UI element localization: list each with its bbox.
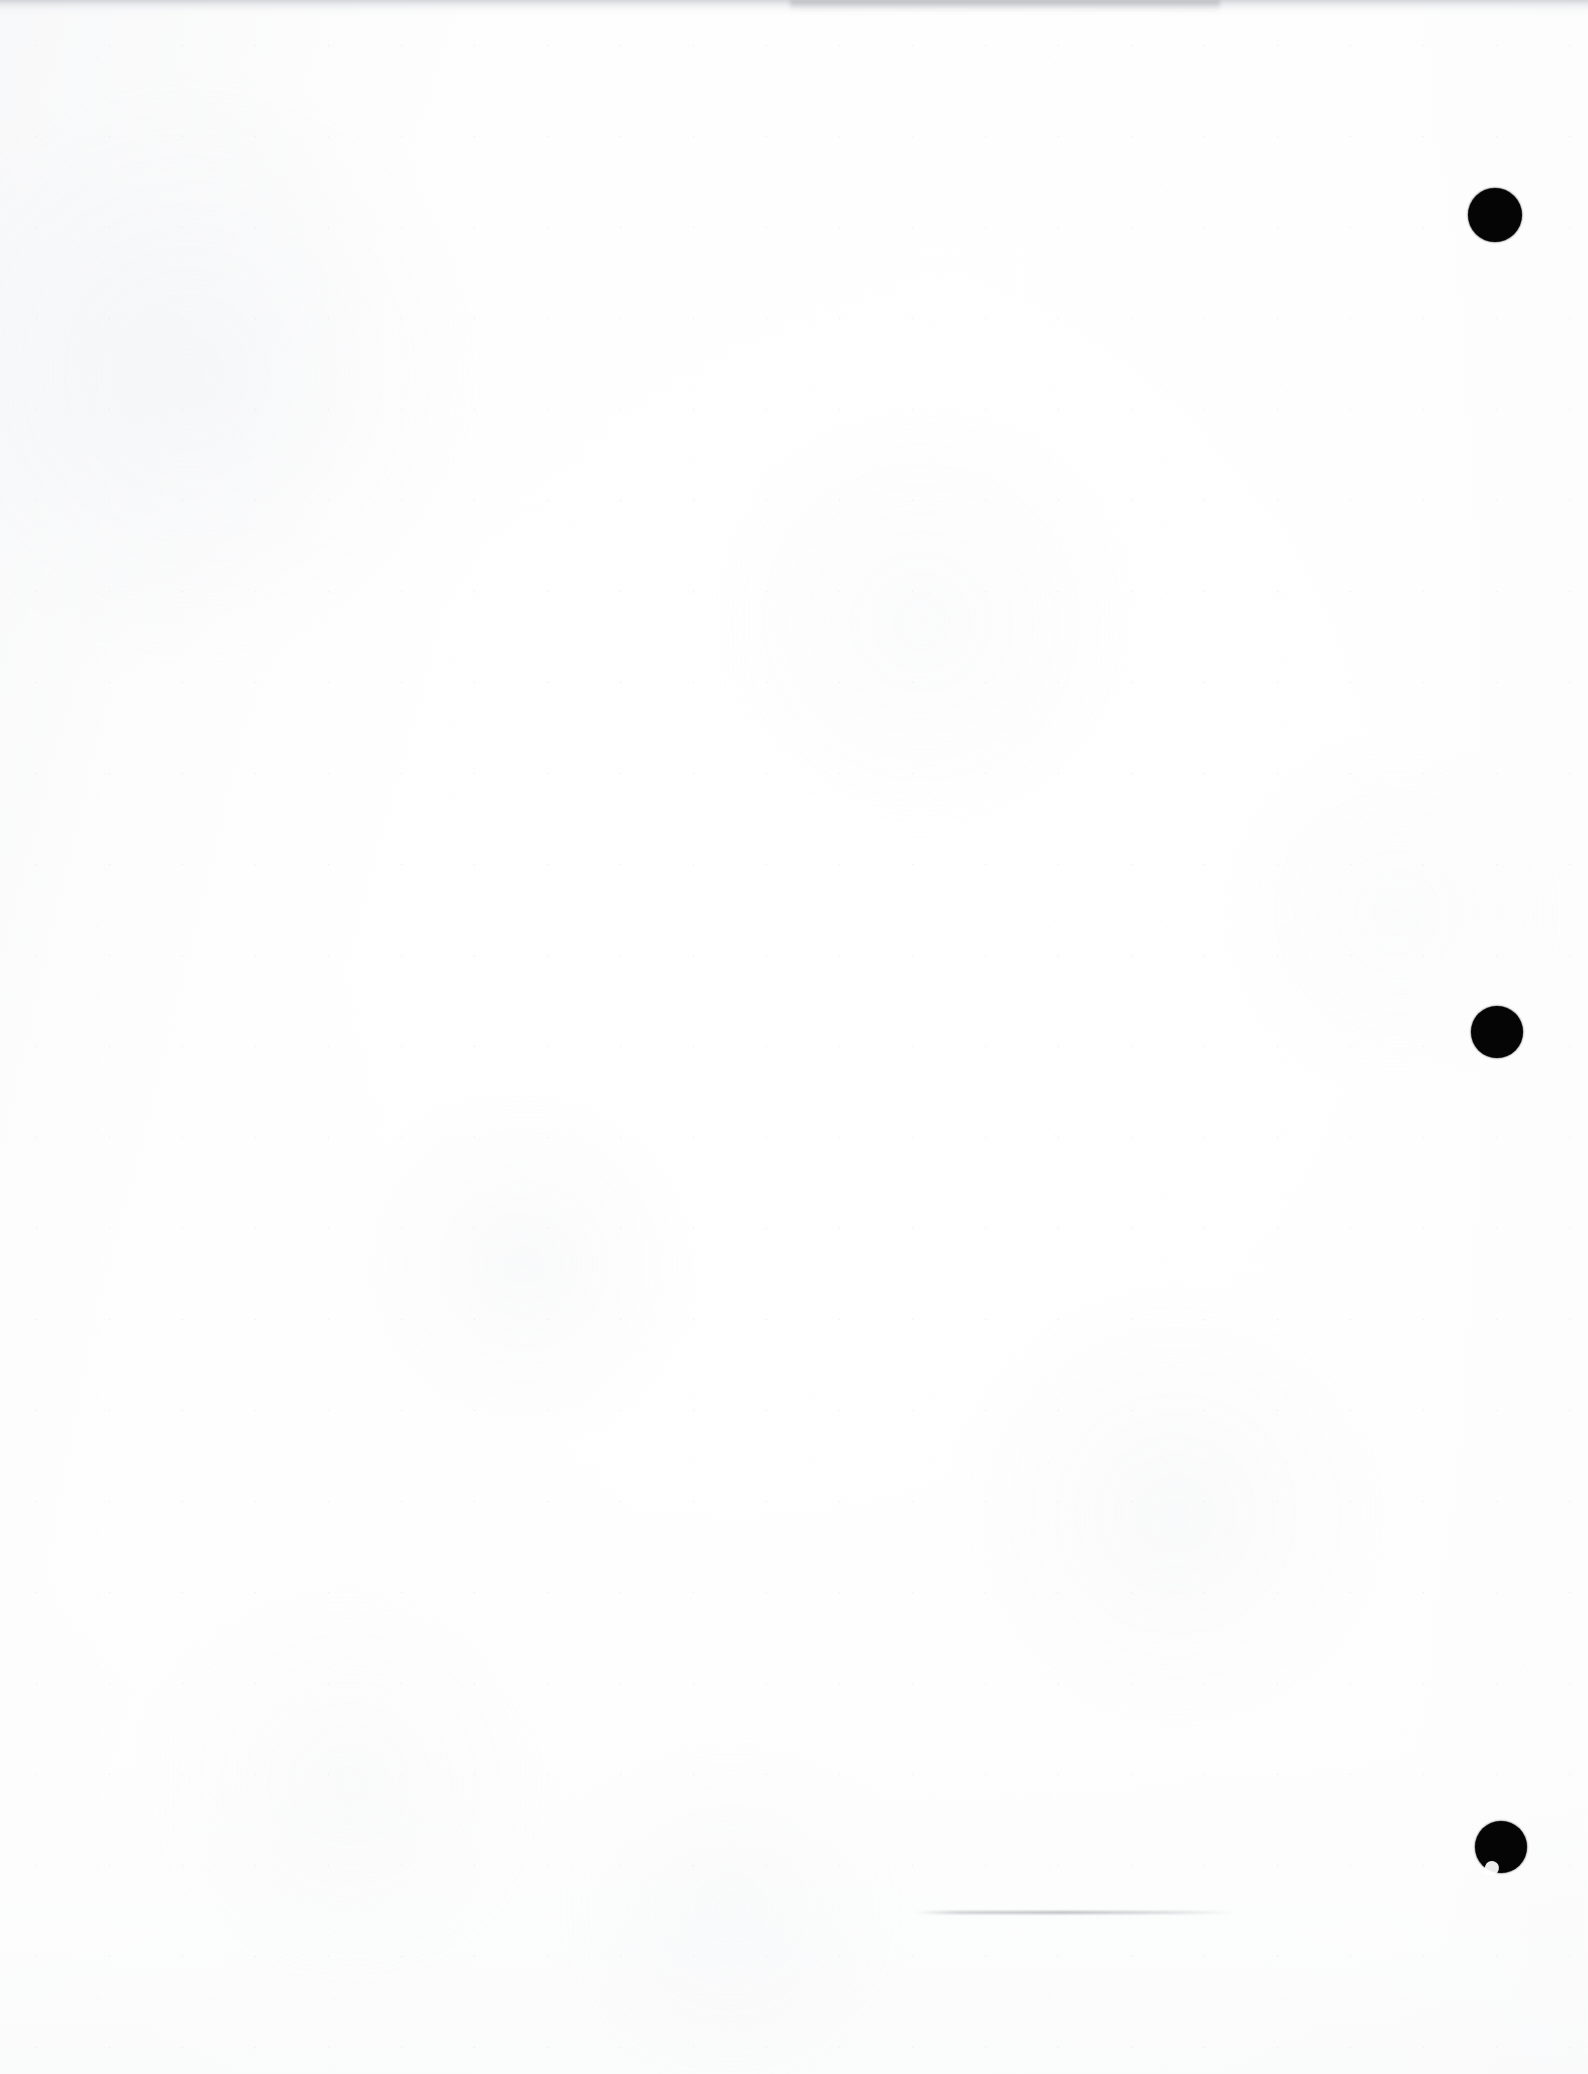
registration-mark-bottom bbox=[1475, 1821, 1527, 1873]
scanned-page bbox=[0, 0, 1588, 2074]
registration-mark-top bbox=[1468, 188, 1522, 242]
paper-surface bbox=[0, 0, 1588, 2074]
registration-mark-middle bbox=[1471, 1006, 1523, 1058]
